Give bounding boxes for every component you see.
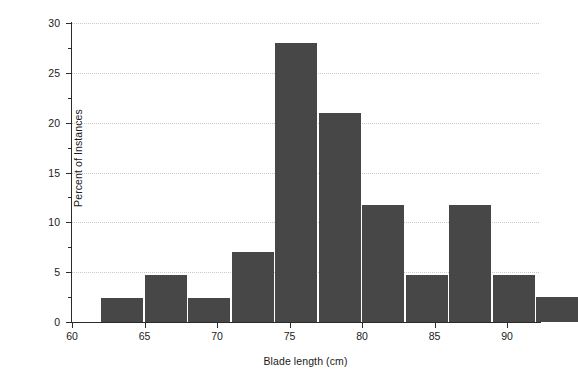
histogram-bar [536, 297, 578, 322]
y-axis-tick-label: 10 [16, 217, 60, 228]
y-axis-tick [66, 272, 72, 273]
histogram-bar [101, 298, 143, 322]
y-axis-tick [66, 73, 72, 74]
y-axis-tick-label: 30 [16, 18, 60, 29]
y-axis-minor-tick [68, 98, 72, 99]
x-axis-tick [435, 323, 436, 328]
x-axis-tick-label: 65 [125, 331, 165, 342]
y-axis-minor-tick [68, 48, 72, 49]
histogram-bar [406, 275, 448, 322]
y-axis-minor-tick [68, 148, 72, 149]
y-axis-minor-tick [68, 247, 72, 248]
x-axis-tick-label: 90 [487, 331, 527, 342]
histogram-bar [232, 252, 274, 322]
x-axis-tick-label: 80 [342, 331, 382, 342]
x-axis-tick [362, 323, 363, 328]
x-axis-tick [507, 323, 508, 328]
histogram-bar [188, 298, 230, 322]
x-axis-tick [290, 323, 291, 328]
histogram-bar [362, 205, 404, 322]
histogram-bar [449, 205, 491, 322]
y-axis-tick [66, 173, 72, 174]
plot-area [72, 23, 539, 322]
y-axis-minor-tick [68, 197, 72, 198]
x-axis-tick [217, 323, 218, 328]
y-axis-tick-label: 0 [16, 317, 60, 328]
x-axis-tick-label: 70 [197, 331, 237, 342]
y-axis-tick-label: 5 [16, 267, 60, 278]
x-axis-tick [72, 323, 73, 328]
x-axis-title: Blade length (cm) [72, 355, 539, 367]
x-axis-tick [145, 323, 146, 328]
y-axis-tick [66, 222, 72, 223]
y-axis-tick [66, 123, 72, 124]
x-axis-tick-label: 60 [52, 331, 92, 342]
y-axis-tick [66, 23, 72, 24]
y-axis-tick-label: 15 [16, 168, 60, 179]
histogram-bar [493, 275, 535, 322]
y-axis-tick-label: 20 [16, 118, 60, 129]
x-axis-tick-label: 85 [415, 331, 455, 342]
y-axis-minor-tick [68, 297, 72, 298]
x-axis-line [71, 322, 541, 323]
y-axis-tick-label: 25 [16, 68, 60, 79]
histogram-bar [319, 113, 361, 322]
histogram-bar [275, 43, 317, 322]
histogram-bar [145, 275, 187, 322]
gridline [72, 23, 539, 24]
x-axis-tick-label: 75 [270, 331, 310, 342]
